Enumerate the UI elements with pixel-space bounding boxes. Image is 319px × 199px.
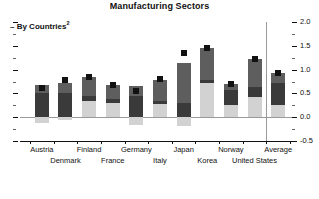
- bar-segment-1: [153, 104, 167, 117]
- bar-segment-3: [248, 59, 262, 87]
- bar-segment-1: [35, 117, 49, 123]
- y-tick-left-major: [13, 46, 18, 47]
- total-marker: [62, 77, 68, 83]
- x-axis-line: [20, 141, 296, 142]
- bar-united-states[interactable]: [248, 0, 262, 199]
- y-tick-minor: [292, 34, 295, 35]
- x-tick: [195, 141, 196, 144]
- bar-segment-3: [177, 63, 191, 103]
- y-tick-minor: [292, 129, 295, 130]
- total-marker: [86, 74, 92, 80]
- y-tick-label: 2.0: [300, 17, 310, 26]
- y-tick-major: [292, 22, 297, 23]
- x-tick: [172, 141, 173, 144]
- x-tick: [148, 141, 149, 144]
- bar-segment-2: [58, 93, 72, 117]
- total-marker: [252, 56, 258, 62]
- bar-japan[interactable]: [177, 0, 191, 199]
- y-tick-minor: [292, 82, 295, 83]
- bar-segment-1: [177, 117, 191, 126]
- y-tick-left-major: [13, 70, 18, 71]
- bar-segment-1: [248, 97, 262, 117]
- x-tick: [77, 141, 78, 144]
- bar-segment-2: [248, 87, 262, 97]
- bar-segment-3: [58, 83, 72, 93]
- bar-segment-2: [82, 96, 96, 102]
- y-tick-label: 1.0: [300, 65, 310, 74]
- bar-segment-1: [200, 83, 214, 117]
- y-tick-left-minor: [13, 82, 16, 83]
- total-marker: [181, 50, 187, 56]
- x-tick: [243, 141, 244, 144]
- bar-segment-2: [106, 99, 120, 103]
- x-tick: [54, 141, 55, 144]
- bar-segment-1: [224, 105, 238, 117]
- x-tick: [125, 141, 126, 144]
- bar-korea[interactable]: [200, 0, 214, 199]
- x-tick: [290, 141, 291, 144]
- bar-segment-2: [177, 103, 191, 117]
- chart-container: Manufacturing Sectors – By Countries2 Au…: [0, 0, 319, 199]
- subtitle-dash: –: [10, 22, 17, 31]
- bar-segment-3: [153, 80, 167, 101]
- bar-segment-2: [35, 93, 49, 117]
- y-tick-left-major: [13, 117, 18, 118]
- bar-denmark[interactable]: [58, 0, 72, 199]
- y-tick-left-major: [13, 22, 18, 23]
- bar-segment-1: [82, 101, 96, 117]
- average-separator: [266, 22, 267, 141]
- bar-segment-1: [129, 117, 143, 125]
- y-tick-left-minor: [13, 129, 16, 130]
- y-tick-left-minor: [13, 105, 16, 106]
- bar-segment-1: [58, 117, 72, 119]
- y-tick-left-major: [13, 93, 18, 94]
- total-marker: [275, 70, 281, 76]
- bar-segment-2: [200, 80, 214, 83]
- total-marker: [228, 81, 234, 87]
- y-tick-label: 0.5: [300, 88, 310, 97]
- bar-italy[interactable]: [153, 0, 167, 199]
- bar-segment-1: [106, 103, 120, 117]
- y-tick-major: [292, 93, 297, 94]
- x-tick: [101, 141, 102, 144]
- bar-france[interactable]: [106, 0, 120, 199]
- y-tick-left-minor: [13, 34, 16, 35]
- bar-segment-1: [271, 105, 285, 117]
- y-tick-label: 0.0: [300, 112, 310, 121]
- bar-segment-2: [224, 90, 238, 106]
- bar-segment-3: [200, 48, 214, 80]
- y-tick-left-major: [13, 141, 18, 142]
- y-tick-major: [292, 46, 297, 47]
- total-marker: [110, 82, 116, 88]
- y-tick-label: -0.5: [300, 136, 313, 145]
- bar-finland[interactable]: [82, 0, 96, 199]
- x-tick: [266, 141, 267, 144]
- bar-average[interactable]: [271, 0, 285, 199]
- total-marker: [204, 45, 210, 51]
- x-tick: [30, 141, 31, 144]
- y-tick-label: 1.5: [300, 41, 310, 50]
- total-marker: [157, 76, 163, 82]
- bar-segment-2: [153, 101, 167, 104]
- bar-segment-2: [129, 96, 143, 117]
- y-tick-minor: [292, 58, 295, 59]
- y-tick-major: [292, 117, 297, 118]
- bar-austria[interactable]: [35, 0, 49, 199]
- y-tick-minor: [292, 105, 295, 106]
- bar-norway[interactable]: [224, 0, 238, 199]
- y-tick-left-minor: [13, 58, 16, 59]
- bar-segment-2: [271, 83, 285, 105]
- y-tick-major: [292, 70, 297, 71]
- total-marker: [133, 88, 139, 94]
- total-marker: [39, 85, 45, 91]
- bar-germany[interactable]: [129, 0, 143, 199]
- x-tick: [219, 141, 220, 144]
